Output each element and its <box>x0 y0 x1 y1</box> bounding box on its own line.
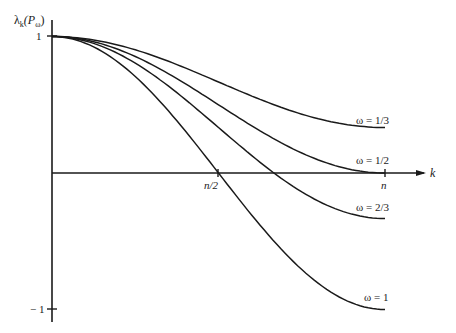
chart-canvas: λk(Pω) 1 − 1 n/2 n k ω = 1/3 ω = 1/2 ω =… <box>0 0 456 333</box>
curve-label-omega-1: ω = 1 <box>364 291 388 303</box>
x-tick-label-half: n/2 <box>204 179 219 191</box>
curve-omega-1 <box>52 37 385 174</box>
curve-omega-0 <box>52 37 385 128</box>
y-tick-label-minus-1: − 1 <box>30 303 44 315</box>
curve-label-omega-1-2: ω = 1/2 <box>356 154 389 166</box>
x-axis-label: k <box>430 166 436 180</box>
curve-label-omega-1-3: ω = 1/3 <box>356 114 390 126</box>
x-tick-label-n: n <box>381 179 387 191</box>
curve-omega-2 <box>52 37 385 219</box>
curve-label-omega-2-3: ω = 2/3 <box>356 201 390 213</box>
y-axis-label: λk(Pω) <box>14 13 44 29</box>
y-tick-label-1: 1 <box>36 30 42 42</box>
x-axis-arrow-icon <box>416 170 426 176</box>
